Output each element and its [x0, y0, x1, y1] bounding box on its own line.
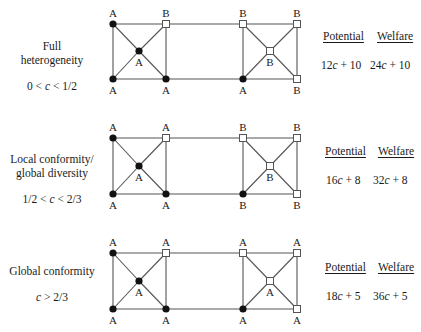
node-label: A: [293, 236, 301, 248]
node-label: B: [266, 56, 273, 68]
node-label: A: [239, 314, 247, 326]
regime-label-full-heterogeneity: Full heterogeneity 0 < c < 1/2: [0, 39, 104, 93]
graph-edge: [139, 281, 166, 309]
node-circle-icon: [109, 305, 116, 312]
node-circle-icon: [135, 277, 142, 284]
node-label: A: [293, 314, 301, 326]
graph-edge: [270, 166, 297, 194]
node-label: A: [239, 84, 247, 96]
node-label: B: [239, 121, 246, 133]
node-square-icon: [163, 250, 170, 257]
node-circle-icon: [162, 305, 169, 312]
welfare-header: Welfare: [377, 30, 413, 42]
graph-edge: [113, 24, 139, 51]
potential-header: Potential: [325, 261, 366, 273]
graph-edge: [139, 253, 166, 281]
graph-edge: [139, 138, 166, 166]
welfare-header: Welfare: [378, 261, 414, 273]
node-square-icon: [267, 163, 274, 170]
node-label: A: [135, 171, 143, 183]
node-circle-icon: [135, 47, 142, 54]
graph-edge: [270, 281, 297, 309]
node-label: B: [239, 199, 246, 211]
graph-edge: [243, 138, 270, 166]
node-square-icon: [294, 21, 301, 28]
node-circle-icon: [109, 190, 116, 197]
graph-edge: [139, 51, 166, 79]
node-label: B: [293, 84, 300, 96]
node-circle-icon: [135, 162, 142, 169]
graph-edge: [270, 24, 297, 51]
node-label: B: [293, 121, 300, 133]
graph-edge: [270, 138, 297, 166]
graph-edge: [139, 24, 166, 51]
regime-condition: c > 2/3: [0, 290, 104, 304]
node-circle-icon: [239, 190, 246, 197]
potential-value: 16c + 8: [326, 174, 361, 186]
node-square-icon: [267, 278, 274, 285]
regime-label-local-conformity: Local conformity/ global diversity 1/2 <…: [0, 152, 104, 206]
node-label: B: [239, 7, 246, 19]
node-label: A: [109, 7, 117, 19]
regime-title-line: Global conformity: [9, 265, 94, 277]
regime-label-global-conformity: Global conformity c > 2/3: [0, 264, 104, 304]
regime-condition: 1/2 < c < 2/3: [0, 192, 104, 206]
node-label: A: [109, 236, 117, 248]
node-label: B: [162, 7, 169, 19]
node-label: A: [109, 314, 117, 326]
node-label: A: [162, 236, 170, 248]
node-circle-icon: [109, 75, 116, 82]
node-label: A: [109, 121, 117, 133]
node-square-icon: [240, 250, 247, 257]
graph-edge: [270, 51, 297, 79]
node-square-icon: [267, 48, 274, 55]
regime-title-line: Full: [43, 40, 62, 52]
node-square-icon: [294, 191, 301, 198]
regime-condition: 0 < c < 1/2: [0, 79, 104, 93]
node-circle-icon: [109, 249, 116, 256]
node-square-icon: [294, 306, 301, 313]
node-label: A: [239, 236, 247, 248]
node-label: A: [162, 199, 170, 211]
node-label: A: [109, 199, 117, 211]
node-label: A: [135, 56, 143, 68]
graph-edge: [139, 166, 166, 194]
node-square-icon: [240, 135, 247, 142]
welfare-value: 24c + 10: [370, 59, 410, 71]
potential-header: Potential: [325, 145, 366, 157]
node-circle-icon: [162, 75, 169, 82]
potential-value: 12c + 10: [321, 59, 361, 71]
node-square-icon: [163, 135, 170, 142]
potential-header: Potential: [323, 30, 364, 42]
node-label: A: [135, 286, 143, 298]
welfare-header: Welfare: [378, 145, 414, 157]
node-label: B: [293, 199, 300, 211]
node-square-icon: [294, 250, 301, 257]
node-square-icon: [294, 76, 301, 83]
node-square-icon: [163, 21, 170, 28]
graph-edge: [243, 24, 270, 51]
regime-title-line: global diversity: [16, 167, 88, 179]
node-circle-icon: [109, 20, 116, 27]
graph-edge: [270, 253, 297, 281]
node-circle-icon: [239, 305, 246, 312]
welfare-value: 32c + 8: [373, 174, 408, 186]
potential-value: 18c + 5: [326, 290, 361, 302]
welfare-value: 36c + 5: [373, 290, 408, 302]
node-label: A: [162, 121, 170, 133]
node-square-icon: [294, 135, 301, 142]
node-circle-icon: [162, 190, 169, 197]
regime-title-line: heterogeneity: [21, 54, 84, 66]
node-label: B: [293, 7, 300, 19]
graph-edge: [243, 253, 270, 281]
node-label: A: [162, 84, 170, 96]
node-label: A: [162, 314, 170, 326]
node-label: A: [266, 286, 274, 298]
graph-edge: [113, 138, 139, 166]
node-circle-icon: [109, 134, 116, 141]
node-circle-icon: [239, 75, 246, 82]
regime-title-line: Local conformity/: [10, 153, 93, 165]
node-label: A: [109, 84, 117, 96]
node-square-icon: [240, 21, 247, 28]
node-label: B: [266, 171, 273, 183]
